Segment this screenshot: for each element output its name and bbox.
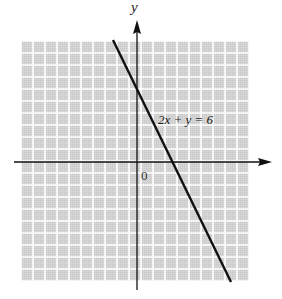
- equation-label: 2x + y = 6: [158, 112, 214, 127]
- grid: [21, 41, 249, 281]
- origin-label: 0: [141, 168, 148, 183]
- y-axis-label: y: [129, 0, 138, 15]
- x-axis-arrow-icon: [258, 158, 272, 166]
- coordinate-plane: y 0 2x + y = 6: [0, 0, 282, 299]
- y-axis-arrow-icon: [133, 20, 141, 34]
